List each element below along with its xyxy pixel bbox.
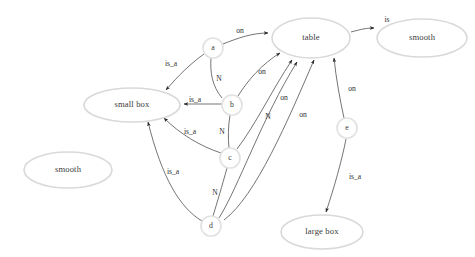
node-smooth-right[interactable]: smooth [377,19,467,57]
node-b[interactable]: b [222,95,242,115]
node-label-d: d [209,221,213,230]
node-table[interactable]: table [272,18,350,58]
edge-label-b-N-c: N [219,127,225,136]
edge-label-c-on-table: on [280,93,288,102]
node-d[interactable]: d [201,216,221,236]
node-label-smooth-right: smooth [409,32,436,42]
edge-d-on-table [224,60,314,220]
edge-label-table-is-smooth: is [384,15,389,24]
edge-a-on-table [223,33,268,44]
edge-label-d-on-table: on [299,110,307,119]
node-label-a: a [211,43,215,52]
node-a[interactable]: a [203,38,223,58]
node-label-table: table [302,32,319,42]
edge-label-e-isa-largebox: is_a [349,172,362,181]
node-large-box[interactable]: large box [281,215,363,249]
edge-label-c-N-d: N [212,188,218,197]
ellipse-nodes-layer: table smooth small box smooth large box [24,18,467,249]
node-label-c: c [228,153,232,162]
node-label-small-box: small box [114,99,150,109]
edge-e-on-table [334,58,344,118]
edge-label-c-isa-smallbox: is_a [184,127,197,136]
diagram-canvas: on is is_a N is_a on N is_a on N is_a N … [0,0,475,257]
edge-table-is-smooth [351,28,374,32]
edge-label-a-isa-smallbox: is_a [165,59,178,68]
edge-label-d-isa-smallbox: is_a [167,167,180,176]
node-smooth-left[interactable]: smooth [24,152,112,188]
edge-label-a-on-table: on [236,26,244,35]
edge-label-e-on-table: on [348,84,356,93]
edge-label-d-N-table: N [265,112,271,121]
edge-label-b-isa-smallbox: is_a [189,95,202,104]
edge-label-b-on-table: on [258,67,266,76]
node-label-e: e [345,123,349,132]
edge-label-a-N-b: N [216,74,222,83]
scene-graph-svg: on is is_a N is_a on N is_a on N is_a N … [0,0,475,257]
node-e[interactable]: e [337,118,357,138]
edge-b-N-c [228,115,230,148]
node-label-smooth-left: smooth [55,164,82,174]
edge-d-N-table [219,62,297,218]
node-label-b: b [230,100,234,109]
node-c[interactable]: c [220,148,240,168]
node-label-large-box: large box [305,226,339,236]
node-small-box[interactable]: small box [84,88,180,122]
edge-e-isa-largebox [326,139,346,212]
